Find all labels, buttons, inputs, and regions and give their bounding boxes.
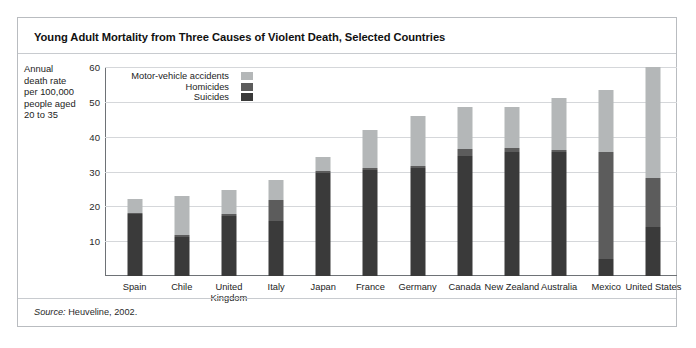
bar-segment: [504, 107, 519, 148]
bar-group: New Zealand: [488, 67, 535, 276]
stacked-bar[interactable]: [221, 190, 236, 276]
bar-segment: [269, 200, 284, 221]
title-divider: [18, 53, 676, 54]
legend-swatch-motor: [241, 72, 253, 80]
bar-segment: [221, 190, 236, 214]
bar-segment: [599, 152, 614, 258]
bar-segment: [504, 152, 519, 276]
y-tick-label-20: 20: [89, 201, 100, 212]
stacked-bar[interactable]: [457, 107, 472, 276]
stacked-bar[interactable]: [127, 199, 142, 276]
legend-swatch-homicides: [241, 83, 253, 91]
y-tick-label-60: 60: [89, 62, 100, 73]
bar-segment: [269, 221, 284, 276]
bar-segment: [174, 196, 189, 235]
bar-segment: [599, 90, 614, 153]
source-divider: [18, 298, 676, 299]
bar-segment: [552, 152, 567, 276]
bar-group: Canada: [441, 67, 488, 276]
y-tick-label-50: 50: [89, 96, 100, 107]
stacked-bar[interactable]: [646, 67, 661, 276]
legend-label: Motor-vehicle accidents: [131, 71, 229, 81]
bar-segment: [127, 214, 142, 276]
bar-segment: [410, 116, 425, 167]
bar-segment: [316, 173, 331, 276]
bar-segment: [457, 156, 472, 276]
bar-segment: [363, 130, 378, 168]
figure-panel: Young Adult Mortality from Three Causes …: [17, 17, 677, 327]
bar-segment: [316, 171, 331, 173]
bar-segment: [504, 148, 519, 151]
stacked-bar[interactable]: [174, 196, 189, 276]
stacked-bar[interactable]: [316, 157, 331, 276]
bar-segment: [127, 213, 142, 215]
bar-group: Germany: [394, 67, 441, 276]
chart-title: Young Adult Mortality from Three Causes …: [34, 31, 445, 43]
source-note: Source: Heuveline, 2002.: [34, 307, 137, 317]
chart-legend: Motor-vehicle accidentsHomicidesSuicides: [131, 71, 253, 103]
legend-item-suicides[interactable]: Suicides: [131, 92, 253, 103]
bar-segment: [127, 199, 142, 213]
stacked-bar[interactable]: [504, 107, 519, 276]
source-value: Heuveline, 2002.: [66, 307, 138, 317]
stacked-bar[interactable]: [410, 116, 425, 276]
y-axis-caption-line-3: per 100,000: [24, 86, 90, 98]
bar-segment: [552, 150, 567, 152]
bar-segment: [269, 180, 284, 201]
y-tick-label-30: 30: [89, 166, 100, 177]
y-axis-caption-line-2: death rate: [24, 75, 90, 87]
bar-segment: [646, 178, 661, 227]
source-label: Source:: [34, 307, 66, 317]
stacked-bar[interactable]: [269, 180, 284, 276]
bar-group: United States: [630, 67, 677, 276]
bar-group: Italy: [253, 67, 300, 276]
bar-segment: [221, 216, 236, 276]
bar-group: Japan: [300, 67, 347, 276]
y-axis-caption-line-5: 20 to 35: [24, 109, 90, 121]
bar-group: Australia: [536, 67, 583, 276]
legend-label: Homicides: [186, 82, 229, 92]
bar-segment: [316, 157, 331, 171]
bar-segment: [457, 149, 472, 156]
bar-segment: [599, 259, 614, 276]
y-axis-caption-line-1: Annual: [24, 63, 90, 75]
legend-label: Suicides: [194, 92, 229, 102]
y-tick-label-40: 40: [89, 131, 100, 142]
bar-segment: [552, 98, 567, 150]
bar-segment: [174, 237, 189, 276]
stacked-bar[interactable]: [552, 98, 567, 276]
bar-segment: [363, 168, 378, 170]
y-axis-caption: Annual death rate per 100,000 people age…: [24, 63, 90, 121]
bar-segment: [410, 168, 425, 276]
bar-group: Mexico: [583, 67, 630, 276]
bar-segment: [646, 67, 661, 178]
y-tick-label-10: 10: [89, 236, 100, 247]
y-axis-caption-line-4: people aged: [24, 98, 90, 110]
legend-swatch-suicides: [241, 93, 253, 101]
bar-segment: [363, 170, 378, 276]
bar-group: France: [347, 67, 394, 276]
stacked-bar[interactable]: [363, 130, 378, 276]
bar-segment: [174, 235, 189, 237]
bar-segment: [221, 214, 236, 216]
x-tick-label: United States: [625, 282, 681, 293]
legend-item-motor[interactable]: Motor-vehicle accidents: [131, 71, 253, 82]
legend-item-homicides[interactable]: Homicides: [131, 82, 253, 93]
bar-segment: [457, 107, 472, 149]
bar-segment: [410, 166, 425, 168]
stacked-bar[interactable]: [599, 90, 614, 276]
bar-segment: [646, 227, 661, 276]
